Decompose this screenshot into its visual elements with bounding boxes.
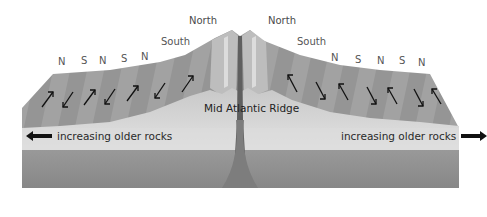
polarity-label: N — [99, 56, 106, 66]
ridge-crack-highlight — [224, 36, 228, 88]
polarity-label: N — [331, 53, 338, 63]
south-label-left: South — [161, 37, 190, 47]
polarity-label: S — [399, 56, 405, 66]
older-rocks-right-text: increasing older rocks — [341, 131, 456, 142]
polarity-label: S — [81, 56, 87, 66]
polarity-label: S — [355, 55, 361, 65]
older-rocks-left: increasing older rocks — [32, 131, 172, 142]
polarity-label: N — [418, 58, 425, 68]
older-rocks-left-text: increasing older rocks — [57, 131, 172, 142]
polarity-label: N — [377, 56, 384, 66]
older-rocks-right: increasing older rocks — [341, 131, 481, 142]
polarity-label: N — [58, 57, 65, 67]
ridge-crack-highlight — [252, 36, 256, 88]
arrow-right-icon — [461, 134, 481, 138]
south-label-right: South — [297, 37, 326, 47]
ridge-label: Mid Atlantic Ridge — [204, 103, 299, 114]
north-label-left: North — [189, 16, 217, 26]
polarity-label: S — [121, 54, 127, 64]
polarity-label: N — [141, 52, 148, 62]
north-label-right: North — [268, 16, 296, 26]
arrow-left-icon — [32, 134, 52, 138]
